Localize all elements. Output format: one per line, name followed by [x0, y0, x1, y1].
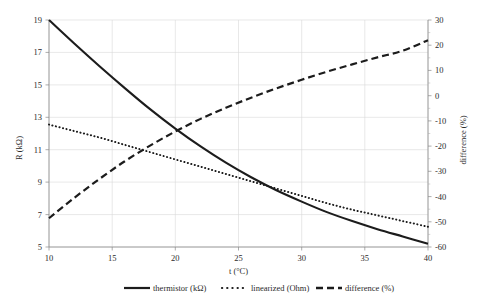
- y-axis-left-ticks: [46, 20, 50, 247]
- x-axis-ticks: [49, 247, 428, 251]
- y-tick-label: 7: [38, 210, 42, 220]
- x-tick-label: 20: [171, 253, 180, 263]
- y2-tick-label: -40: [435, 192, 446, 202]
- y-tick-label: 11: [34, 145, 42, 155]
- y2-tick-label: -20: [435, 141, 446, 151]
- x-tick-label: 35: [361, 253, 370, 263]
- chart-figure: · · · · · · ·: [0, 0, 484, 305]
- y-axis-left-tick-labels: 19 17 15 13 11 9 7 5: [34, 15, 43, 252]
- y2-tick-label: -50: [435, 217, 446, 227]
- chart-svg: · · · · · · ·: [0, 0, 484, 305]
- y-tick-label: 9: [38, 177, 42, 187]
- legend-label: difference (%): [345, 283, 394, 293]
- y2-tick-label: 20: [435, 40, 444, 50]
- x-axis-tick-labels: 10 15 20 25 30 35 40: [45, 253, 433, 263]
- legend-label: linearized (Ohm): [251, 283, 309, 293]
- y-axis-right-tick-labels: 30 20 10 0 -10 -20 -30 -40 -50 -60: [435, 15, 446, 252]
- x-tick-label: 25: [234, 253, 243, 263]
- y-tick-label: 5: [38, 242, 42, 252]
- legend-item-difference[interactable]: difference (%): [316, 283, 394, 293]
- x-tick-label: 15: [108, 253, 117, 263]
- x-tick-label: 30: [297, 253, 306, 263]
- y2-tick-label: 0: [435, 91, 439, 101]
- x-tick-label: 40: [424, 253, 433, 263]
- y-axis-right-title: difference (%): [458, 115, 468, 164]
- y2-tick-label: -30: [435, 166, 446, 176]
- x-axis-title: t (°C): [229, 266, 248, 276]
- y-tick-label: 13: [34, 112, 43, 122]
- y2-tick-label: 10: [435, 65, 444, 75]
- chart-legend: thermistor (kΩ) linearized (Ohm) differe…: [124, 283, 394, 293]
- x-tick-label: 10: [45, 253, 54, 263]
- y-tick-label: 19: [34, 15, 43, 25]
- y-tick-label: 17: [34, 47, 43, 57]
- y-axis-left-title: R (kΩ): [14, 136, 24, 160]
- y2-tick-label: 30: [435, 15, 444, 25]
- legend-item-linearized[interactable]: linearized (Ohm): [222, 283, 309, 293]
- y2-tick-label: -60: [435, 242, 446, 252]
- y-tick-label: 15: [34, 80, 43, 90]
- y2-tick-label: -10: [435, 116, 446, 126]
- legend-item-thermistor[interactable]: thermistor (kΩ): [124, 283, 206, 293]
- legend-label: thermistor (kΩ): [153, 283, 206, 293]
